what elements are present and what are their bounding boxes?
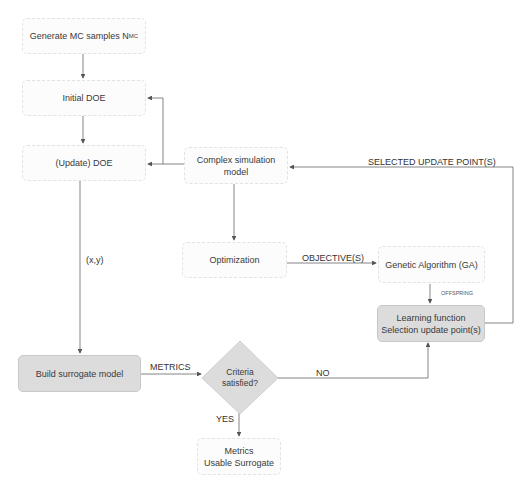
objectives-edge-label: OBJECTIVE(S): [302, 253, 364, 263]
initial-doe-node: Initial DOE: [22, 80, 146, 116]
generate-mc-label: Generate MC samples N: [30, 30, 129, 42]
update-doe-label: (Update) DOE: [55, 157, 112, 169]
xy-edge-label: (x,y): [86, 255, 104, 265]
learning-function-node: Learning function Selection update point…: [377, 305, 485, 342]
no-edge-label: NO: [316, 368, 330, 378]
genetic-algorithm-label: Genetic Algorithm (GA): [385, 259, 478, 271]
generate-mc-samples-node: Generate MC samples NMC: [22, 18, 146, 54]
metrics-line2: Usable Surrogate: [204, 457, 274, 469]
metrics-edge-label: METRICS: [150, 362, 191, 372]
selected-update-edge-label: SELECTED UPDATE POINT(S): [368, 157, 496, 167]
genetic-algorithm-node: Genetic Algorithm (GA): [378, 246, 485, 283]
generate-mc-subscript: MC: [129, 30, 138, 42]
criteria-line1: Criteria: [205, 367, 275, 378]
complex-sim-line1: Complex simulation: [197, 154, 276, 166]
complex-sim-line2: model: [224, 166, 249, 178]
metrics-usable-surrogate-node: Metrics Usable Surrogate: [197, 438, 281, 475]
optimization-label: Optimization: [209, 254, 259, 266]
build-surrogate-node: Build surrogate model: [18, 355, 141, 392]
optimization-node: Optimization: [182, 242, 287, 278]
offspring-edge-label: OFFSPRING: [441, 290, 473, 296]
build-surrogate-label: Build surrogate model: [36, 368, 124, 380]
yes-edge-label: YES: [216, 414, 234, 424]
metrics-line1: Metrics: [225, 445, 254, 457]
learning-line1: Learning function: [396, 312, 465, 324]
learning-line2: Selection update point(s): [381, 324, 481, 336]
initial-doe-label: Initial DOE: [62, 92, 105, 104]
criteria-text: Criteria satisfied?: [205, 367, 275, 389]
update-doe-node: (Update) DOE: [22, 145, 146, 181]
criteria-line2: satisfied?: [205, 378, 275, 389]
complex-simulation-node: Complex simulation model: [184, 147, 288, 184]
